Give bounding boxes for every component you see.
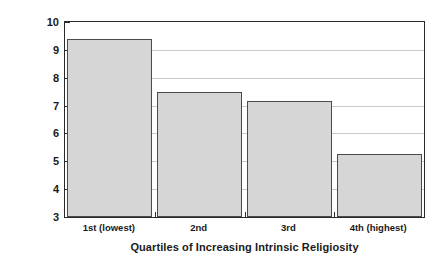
bar-2 xyxy=(157,92,242,217)
x-axis-tick-label: 2nd xyxy=(190,221,207,235)
x-axis-title: Quartiles of Increasing Intrinsic Religi… xyxy=(64,241,425,253)
x-axis-tick-label: 1st (lowest) xyxy=(83,221,135,235)
y-axis-tick-mark xyxy=(65,217,70,218)
y-axis-tick-label: 9 xyxy=(19,44,59,55)
x-axis-tick-mark xyxy=(245,212,246,217)
x-axis-tick-labels: 1st (lowest)2nd3rd4th (highest) xyxy=(64,221,425,237)
y-axis-tick-label: 7 xyxy=(19,100,59,111)
bar-chart-figure: Average Number of Hospital Days 34567891… xyxy=(0,0,441,271)
y-axis-tick-label: 4 xyxy=(19,184,59,195)
y-axis-tick-label: 5 xyxy=(19,156,59,167)
x-axis-tick-mark xyxy=(334,212,335,217)
x-axis-tick-mark xyxy=(155,212,156,217)
bar-3 xyxy=(247,101,332,217)
y-axis-tick-label: 10 xyxy=(19,17,59,28)
x-axis-tick-label: 3rd xyxy=(281,221,296,235)
plot-area: 345678910 xyxy=(64,21,425,218)
y-axis-tick-label: 8 xyxy=(19,72,59,83)
y-axis-tick-label: 6 xyxy=(19,128,59,139)
bars-layer xyxy=(65,22,424,217)
bar-1 xyxy=(67,39,152,217)
bar-4 xyxy=(337,154,422,217)
x-axis-tick-label: 4th (highest) xyxy=(350,221,407,235)
y-axis-tick-label: 3 xyxy=(19,212,59,223)
